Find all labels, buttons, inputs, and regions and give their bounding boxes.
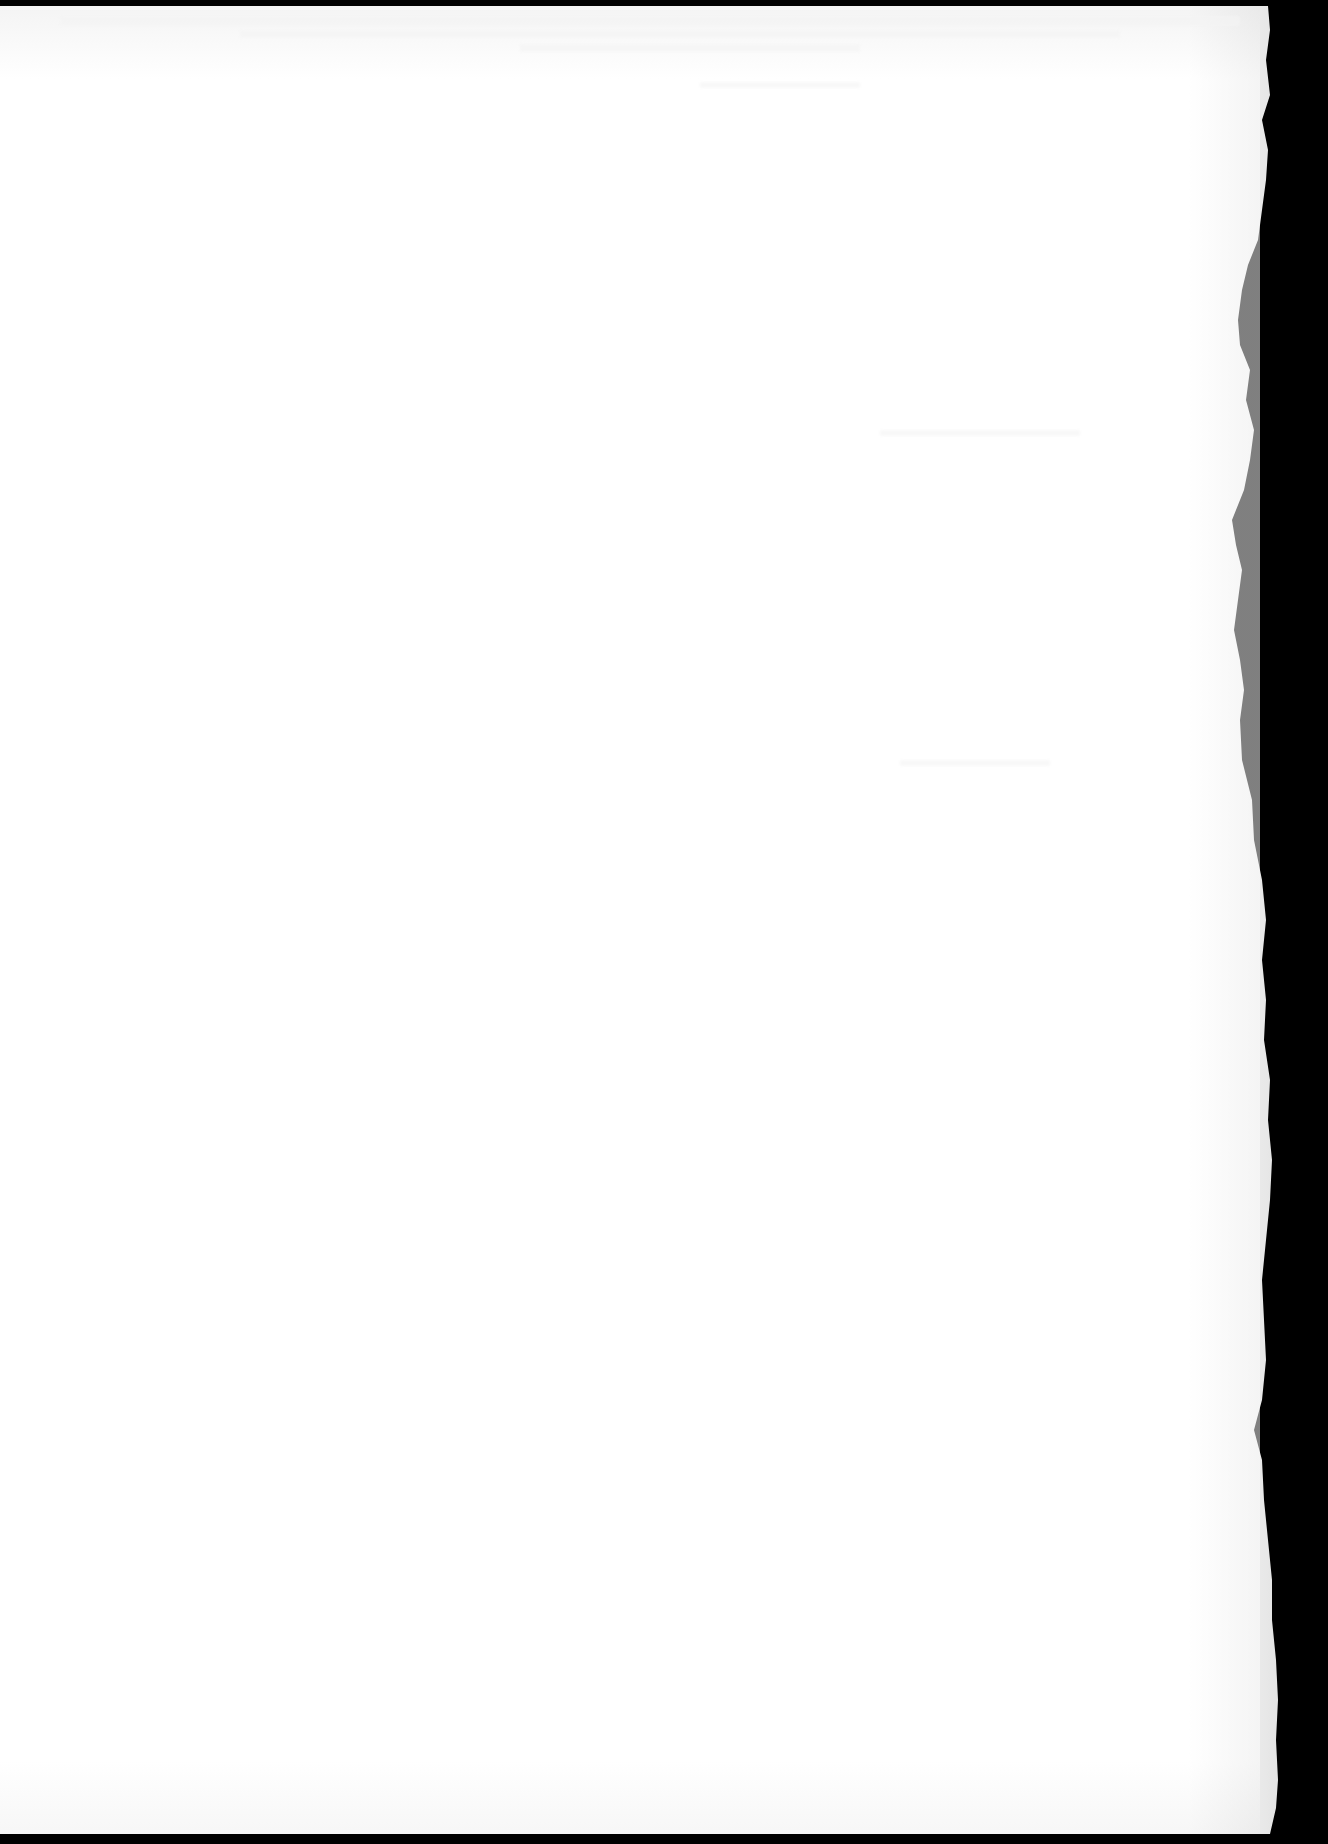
scanned-page: [0, 0, 1328, 1844]
paper-sheet: [0, 0, 1328, 1844]
bleed-through-mark: [240, 30, 1120, 38]
bleed-through-mark: [700, 82, 860, 88]
bleed-through-mark: [880, 430, 1080, 436]
bleed-through-mark: [60, 16, 1240, 26]
bleed-through-mark: [900, 760, 1050, 766]
bleed-through-mark: [520, 44, 860, 52]
